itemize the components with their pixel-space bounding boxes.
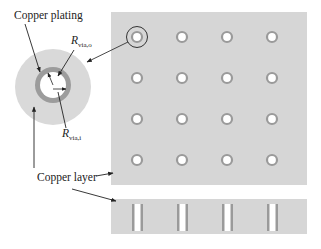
via-detail <box>15 49 91 125</box>
r-via-i-label: Rvia,i <box>61 127 81 142</box>
copper-layer-arrow-top <box>96 173 113 176</box>
r-via-o-label: Rvia,o <box>70 34 92 49</box>
copper-plating-label: Copper plating <box>14 9 83 22</box>
copper-layer-arrow-section <box>72 189 116 201</box>
via-array-diagram: Copper plating Rvia,o Rvia,i Copper laye… <box>0 0 321 249</box>
copper-layer-label: Copper layer <box>37 171 97 184</box>
